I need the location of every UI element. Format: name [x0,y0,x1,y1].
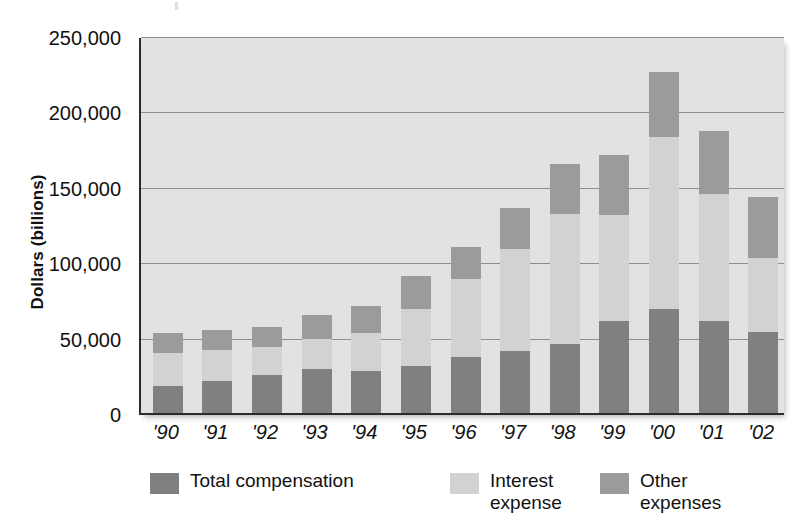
bar [500,208,530,413]
x-tick-label: '96 [441,420,487,444]
bar-segment [153,333,183,353]
y-tick-label: 50,000 [25,330,121,350]
bar-segment [649,137,679,309]
bar-segment [699,321,729,413]
bar-segment [252,327,282,347]
bar-segment [302,339,332,369]
x-tick-label: '94 [341,420,387,444]
scan-artifact [175,2,178,10]
x-tick-label: '02 [738,420,784,444]
bar-group [141,38,784,413]
y-axis-tick-labels: 050,000100,000150,000200,000250,000 [25,0,121,532]
bar [649,72,679,413]
legend-swatch [150,473,179,494]
bar-segment [550,164,580,214]
bar [302,315,332,413]
plot-area [139,38,784,415]
bar-segment [202,381,232,413]
legend-item[interactable]: Other expenses [600,470,721,514]
bar-segment [202,350,232,382]
bar-segment [748,258,778,332]
bar [599,155,629,413]
legend-item[interactable]: Interest expense [450,470,562,514]
bar [401,276,431,413]
bar-segment [401,276,431,309]
x-tick-label: '92 [242,420,288,444]
legend-label: Interest expense [490,470,562,514]
bar-segment [748,197,778,257]
bar-segment [153,386,183,413]
y-tick-label: 0 [25,405,121,425]
bar [252,327,282,413]
bar-segment [302,315,332,339]
x-tick-label: '98 [540,420,586,444]
bar-segment [252,347,282,376]
bar-segment [550,214,580,344]
bar-segment [599,321,629,413]
x-tick-label: '93 [292,420,338,444]
bar [748,197,778,413]
legend-swatch [600,473,629,494]
bar [699,131,729,413]
x-tick-label: '91 [192,420,238,444]
bar-segment [351,333,381,371]
bar [451,247,481,413]
bar-segment [401,309,431,366]
bar [153,333,183,413]
chart-legend: Total compensationInterest expenseOther … [150,470,710,526]
bar-segment [599,155,629,215]
bar-segment [550,344,580,413]
bar-segment [699,131,729,194]
x-tick-label: '01 [689,420,735,444]
legend-label: Other expenses [640,470,721,514]
bar-segment [699,194,729,321]
x-tick-label: '97 [490,420,536,444]
x-axis-tick-labels: '90'91'92'93'94'95'96'97'98'99'00'01'02 [139,420,784,450]
bar-segment [302,369,332,413]
legend-label: Total compensation [190,470,354,492]
bar-segment [351,371,381,413]
bar-segment [649,309,679,413]
x-tick-label: '90 [143,420,189,444]
bar-segment [451,357,481,413]
bar-segment [252,375,282,413]
legend-item[interactable]: Total compensation [150,470,354,494]
bar-segment [748,332,778,413]
x-tick-label: '00 [639,420,685,444]
bar [202,330,232,413]
bar-segment [153,353,183,386]
x-tick-label: '95 [391,420,437,444]
y-tick-label: 200,000 [25,103,121,123]
bar [351,306,381,413]
legend-swatch [450,473,479,494]
bar-segment [351,306,381,333]
bar-segment [649,72,679,137]
x-tick-label: '99 [589,420,635,444]
stacked-bar-chart: Dollars (billions) 050,000100,000150,000… [0,0,799,532]
bar-segment [451,247,481,279]
y-tick-label: 100,000 [25,254,121,274]
bar-segment [401,366,431,413]
bar-segment [202,330,232,350]
bar-segment [500,249,530,352]
bar-segment [451,279,481,357]
bar-segment [500,351,530,413]
y-tick-label: 250,000 [25,28,121,48]
bar-segment [500,208,530,249]
bar [550,164,580,413]
y-tick-label: 150,000 [25,179,121,199]
bar-segment [599,215,629,321]
